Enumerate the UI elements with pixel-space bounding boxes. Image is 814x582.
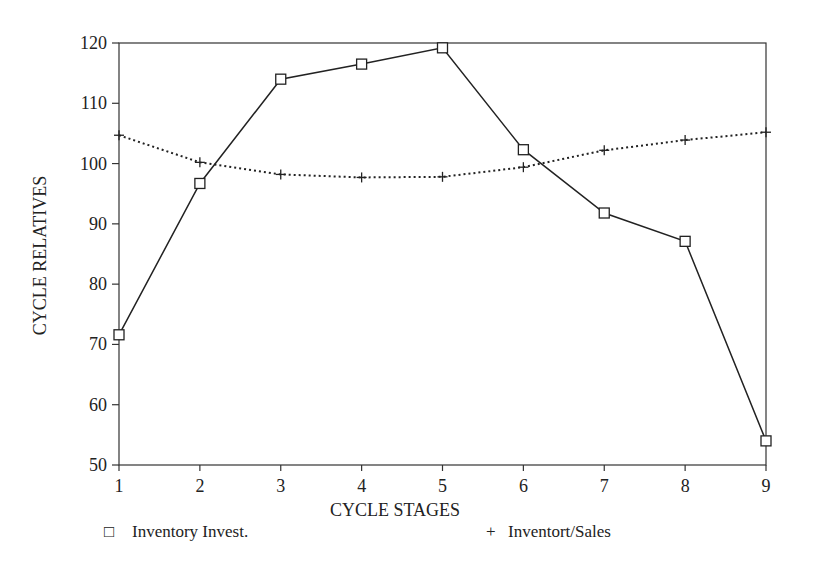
- y-axis-label: CYCLE RELATIVES: [30, 156, 51, 356]
- y-tick-label: 120: [80, 33, 107, 53]
- legend: □ Inventory Invest. + Inventort/Sales: [104, 522, 704, 546]
- y-tick-label: 90: [89, 214, 107, 234]
- x-tick-label: 2: [195, 476, 204, 496]
- legend-label-inventory-invest: Inventory Invest.: [132, 522, 248, 542]
- y-tick-label: 50: [89, 455, 107, 475]
- x-tick-label: 6: [519, 476, 528, 496]
- data-point-square: [680, 236, 690, 246]
- series-inventory-invest-line: [119, 48, 766, 441]
- x-tick-label: 9: [762, 476, 771, 496]
- data-point-square: [357, 59, 367, 69]
- x-tick-label: 5: [438, 476, 447, 496]
- x-tick-label: 4: [357, 476, 366, 496]
- plot-frame: [119, 43, 766, 465]
- x-tick-label: 8: [681, 476, 690, 496]
- y-tick-label: 110: [81, 93, 107, 113]
- legend-marker-plus: +: [486, 522, 496, 542]
- data-point-square: [195, 178, 205, 188]
- x-tick-label: 3: [276, 476, 285, 496]
- y-tick-label: 70: [89, 334, 107, 354]
- x-axis-label: CYCLE STAGES: [330, 500, 460, 521]
- line-chart: 5060708090100110120123456789: [0, 0, 814, 582]
- y-tick-label: 80: [89, 274, 107, 294]
- y-tick-label: 100: [80, 154, 107, 174]
- series-inventory-sales-line: [119, 132, 766, 177]
- data-point-square: [518, 145, 528, 155]
- data-point-square: [276, 74, 286, 84]
- legend-marker-square: □: [104, 522, 114, 542]
- legend-label-inventory-sales: Inventort/Sales: [508, 522, 611, 542]
- data-point-square: [438, 43, 448, 53]
- x-tick-label: 1: [115, 476, 124, 496]
- y-tick-label: 60: [89, 395, 107, 415]
- data-point-square: [599, 208, 609, 218]
- data-point-square: [114, 330, 124, 340]
- data-point-square: [761, 436, 771, 446]
- x-tick-label: 7: [600, 476, 609, 496]
